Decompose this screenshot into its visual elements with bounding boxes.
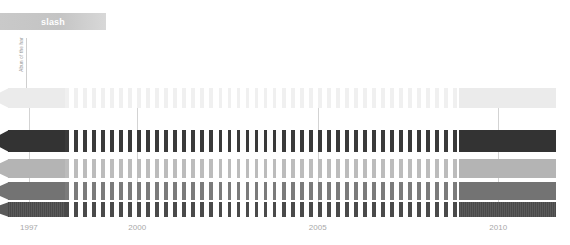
row-right-block: [459, 159, 556, 178]
y-axis-label: Abun of the har: [19, 33, 24, 77]
row-left-body: [8, 159, 65, 178]
chart-row: [0, 130, 556, 152]
row-right-block: [459, 202, 556, 217]
chart-row: [0, 159, 556, 178]
x-axis-tick-label: 2010: [489, 223, 507, 232]
row-dashes: [65, 88, 459, 108]
row-left-block: [0, 202, 65, 217]
x-axis-tick-label: 2005: [309, 223, 327, 232]
page-title: slash: [41, 17, 65, 27]
row-dashes: [65, 159, 459, 178]
row-left-body: [8, 130, 65, 152]
row-left-block: [0, 182, 65, 200]
row-dashes: [65, 202, 459, 217]
row-left-body: [8, 202, 65, 217]
row-dashes: [65, 130, 459, 152]
chart-row: [0, 182, 556, 200]
row-right-block: [459, 182, 556, 200]
row-left-block: [0, 130, 65, 152]
row-left-body: [8, 88, 65, 108]
chart-row: [0, 88, 556, 108]
chart-plot-area: [0, 88, 556, 217]
row-left-body: [8, 182, 65, 200]
series-rows: [0, 88, 556, 217]
x-axis: 1997200020052010: [0, 219, 570, 239]
row-right-block: [459, 88, 556, 108]
row-left-block: [0, 88, 65, 108]
chart-row: [0, 202, 556, 217]
row-right-block: [459, 130, 556, 152]
row-dashes: [65, 182, 459, 200]
x-axis-tick-label: 1997: [20, 223, 38, 232]
chart-title-bar: slash: [0, 13, 106, 30]
x-axis-tick-label: 2000: [128, 223, 146, 232]
row-left-block: [0, 159, 65, 178]
